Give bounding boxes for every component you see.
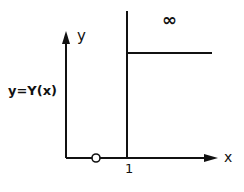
infinity-label: ∞ [162,11,177,29]
y-axis-label: y [77,29,86,44]
function-label: y=Υ(x) [8,84,57,97]
tick-label-1: 1 [125,162,133,175]
x-axis-arrowhead [204,154,218,162]
open-circle-marker [92,154,100,162]
y-axis-arrowhead [62,31,70,44]
x-axis-label: x [224,150,232,164]
